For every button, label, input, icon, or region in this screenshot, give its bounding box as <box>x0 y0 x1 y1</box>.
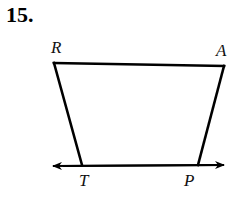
vertex-labels: RAPT <box>50 38 227 190</box>
segment-RA <box>54 63 224 66</box>
vertex-label-A: A <box>215 41 227 60</box>
line-TP-right-arrow <box>63 165 224 166</box>
segment-AP <box>198 66 224 165</box>
vertex-label-T: T <box>79 171 90 190</box>
segment-RT <box>54 63 82 165</box>
quadrilateral-diagram: RAPT <box>0 0 247 199</box>
vertex-label-P: P <box>183 171 194 190</box>
vertex-label-R: R <box>50 38 62 57</box>
quadrilateral-RATP <box>53 63 224 166</box>
